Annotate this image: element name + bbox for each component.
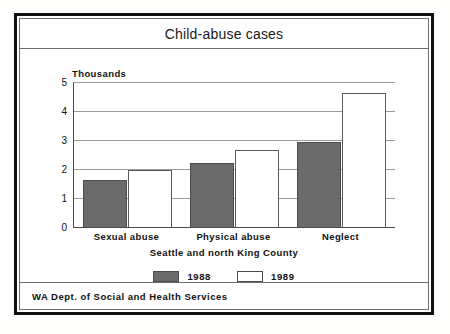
x-axis-line [73,227,395,228]
y-tick-4: 4 [53,106,67,117]
x-tick-label-physical-abuse: Physical abuse [180,231,287,242]
legend-item-1989: 1989 [237,271,295,282]
chart-frame-outer: Child-abuse cases Thousands 5 4 3 2 1 0 [14,13,434,315]
y-axis-units-label: Thousands [72,68,126,79]
legend-item-1988: 1988 [153,271,211,282]
legend-swatch-1989 [237,271,263,282]
plot-wrapper: Thousands 5 4 3 2 1 0 Sexual abusePhysic… [20,49,428,282]
legend-label-1988: 1988 [187,271,211,282]
screenshot-root: Child-abuse cases Thousands 5 4 3 2 1 0 [0,0,450,334]
source-attribution: WA Dept. of Social and Health Services [32,291,228,302]
bar-1989-physical-abuse [235,150,279,228]
y-tick-3: 3 [53,135,67,146]
bar-1988-sexual-abuse [83,180,127,228]
y-tick-1: 1 [53,193,67,204]
page-title: Child-abuse cases [165,26,284,42]
bar-1988-physical-abuse [190,163,234,228]
bar-1989-neglect [342,93,386,228]
bar-1988-neglect [297,142,341,228]
x-tick-label-neglect: Neglect [287,231,394,242]
chart-frame-inner: Child-abuse cases Thousands 5 4 3 2 1 0 [19,18,429,310]
y-tick-2: 2 [53,164,67,175]
y-tick-0: 0 [53,222,67,233]
chart-legend: 19881989 [20,271,428,282]
chart-footer-bar: WA Dept. of Social and Health Services [20,282,428,309]
legend-swatch-1988 [153,271,179,282]
plot-area [73,82,395,228]
bar-1989-sexual-abuse [128,170,172,228]
x-tick-label-sexual-abuse: Sexual abuse [73,231,180,242]
x-axis-title: Seattle and north King County [20,247,428,258]
chart-title-bar: Child-abuse cases [20,19,428,49]
legend-label-1989: 1989 [271,271,295,282]
y-tick-5: 5 [53,77,67,88]
